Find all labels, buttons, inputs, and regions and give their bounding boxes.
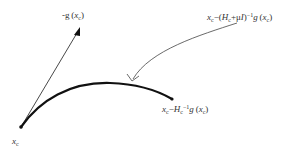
gradient-label: -g (xc) xyxy=(62,11,84,21)
newton-step-label: xc−Hc−1g (xc) xyxy=(162,104,208,115)
start-point xyxy=(19,125,23,129)
lm-step-label: xc−(Hc+μI)−1g (xc) xyxy=(207,12,272,23)
pointer-arrow-curve xyxy=(133,23,237,79)
newton-point xyxy=(170,97,173,100)
start-point-label: xc xyxy=(12,137,19,147)
gradient-arrow-line xyxy=(21,33,77,127)
pointer-arrowhead-icon xyxy=(127,74,139,81)
gradient-arrowhead-icon xyxy=(74,27,80,36)
